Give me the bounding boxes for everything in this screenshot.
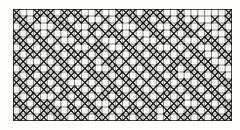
lattice-svg — [13, 9, 232, 121]
lattice-figure — [13, 9, 232, 121]
figure-page — [0, 0, 240, 130]
